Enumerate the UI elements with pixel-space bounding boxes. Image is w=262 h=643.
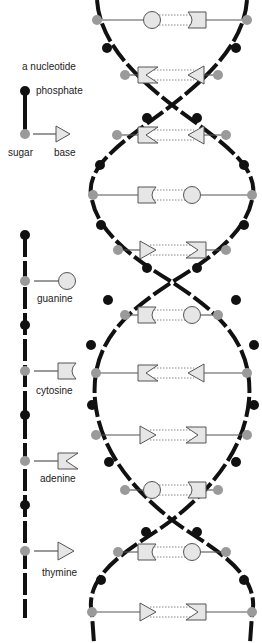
phosphate-icon [103, 295, 113, 305]
cytosine-icon [138, 187, 156, 203]
sugar-icon [92, 15, 102, 25]
cytosine-icon [58, 363, 76, 379]
phosphate-icon [239, 220, 249, 230]
thymine-icon [140, 241, 156, 259]
double-helix [86, 0, 259, 643]
phosphate-icon [249, 400, 259, 410]
phosphate-icon [20, 320, 30, 330]
sugar-icon [213, 70, 223, 80]
sugar-icon [113, 547, 123, 557]
cytosine-icon [138, 544, 156, 560]
phosphate-icon [192, 113, 202, 123]
phosphate-icon [142, 263, 152, 273]
phosphate-icon [231, 295, 241, 305]
phosphate-icon [102, 43, 112, 53]
guanine-icon [144, 12, 161, 29]
phosphate-label: phosphate [36, 85, 83, 96]
sugar-icon [20, 456, 30, 466]
guanine-icon [184, 544, 201, 561]
sugar-icon [20, 129, 30, 139]
single-strand-legend: guanine cytosine adenine thymine [20, 230, 78, 618]
sugar-icon [242, 15, 252, 25]
dna-double-helix-diagram: a nucleotide phosphate sugar base guanin… [0, 0, 262, 643]
sugar-icon [91, 430, 101, 440]
base-label: base [54, 147, 76, 158]
phosphate-icon [231, 457, 241, 467]
phosphate-icon [239, 575, 249, 585]
thymine-icon [140, 603, 156, 621]
sugar-icon [91, 368, 101, 378]
guanine-icon [144, 482, 161, 499]
phosphate-icon [20, 86, 30, 96]
nucleotide-legend: a nucleotide phosphate sugar base [8, 61, 83, 158]
sugar-icon [20, 276, 30, 286]
guanine-icon [59, 273, 76, 290]
adenine-icon [58, 453, 78, 469]
nucleotide-title: a nucleotide [22, 61, 76, 72]
phosphate-icon [141, 527, 151, 537]
sugar-icon [242, 430, 252, 440]
cytosine-label: cytosine [36, 385, 73, 396]
adenine-icon [186, 242, 206, 258]
sugar-icon [112, 130, 122, 140]
phosphate-icon [87, 400, 97, 410]
phosphate-icon [95, 160, 105, 170]
phosphate-icon [20, 230, 30, 240]
adenine-icon [138, 67, 158, 83]
adenine-icon [186, 604, 206, 620]
cytosine-icon [138, 307, 156, 323]
sugar-icon [213, 485, 223, 495]
phosphate-icon [104, 457, 114, 467]
sugar-icon [87, 607, 97, 617]
thymine-icon [188, 66, 204, 84]
sugar-icon [247, 607, 257, 617]
adenine-icon [138, 365, 158, 381]
adenine-icon [186, 427, 206, 443]
sugar-icon [242, 368, 252, 378]
phosphate-icon [231, 43, 241, 53]
sugar-icon [120, 70, 130, 80]
sugar-icon [88, 190, 98, 200]
phosphate-icon [249, 340, 259, 350]
adenine-icon [138, 127, 158, 143]
phosphate-icon [239, 160, 249, 170]
cytosine-icon [188, 12, 206, 28]
sugar-icon [20, 546, 30, 556]
phosphate-icon [20, 410, 30, 420]
guanine-icon [184, 187, 201, 204]
guanine-label: guanine [37, 293, 73, 304]
base-icon [56, 126, 70, 142]
phosphate-icon [192, 527, 202, 537]
phosphate-icon [192, 263, 202, 273]
thymine-icon [58, 542, 74, 560]
backbone-strand-1 [95, 0, 254, 643]
thymine-icon [188, 126, 204, 144]
phosphate-icon [20, 500, 30, 510]
thymine-icon [188, 364, 204, 382]
sugar-icon [221, 130, 231, 140]
sugar-icon [247, 190, 257, 200]
sugar-icon [120, 485, 130, 495]
guanine-icon [184, 307, 201, 324]
phosphate-icon [96, 220, 106, 230]
phosphate-icon [86, 340, 96, 350]
phosphate-icon [96, 575, 106, 585]
sugar-icon [213, 310, 223, 320]
sugar-icon [20, 366, 30, 376]
thymine-icon [140, 426, 156, 444]
thymine-label: thymine [42, 567, 77, 578]
sugar-icon [221, 245, 231, 255]
phosphate-icon [142, 113, 152, 123]
sugar-icon [221, 547, 231, 557]
cytosine-icon [188, 482, 206, 498]
sugar-label: sugar [8, 147, 34, 158]
sugar-icon [120, 310, 130, 320]
adenine-label: adenine [40, 473, 76, 484]
sugar-icon [113, 245, 123, 255]
